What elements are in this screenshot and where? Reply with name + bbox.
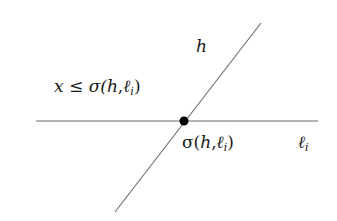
- label-line-l-i: ℓi: [298, 134, 309, 153]
- constraint-prefix: x ≤ σ(: [54, 76, 107, 96]
- diagram-lines: [0, 0, 337, 221]
- label-intersection: σ(h,ℓi): [182, 134, 234, 153]
- point-close: ): [227, 132, 234, 152]
- point-h: h: [200, 132, 211, 152]
- intersection-point: [180, 117, 189, 126]
- line-h: [115, 23, 261, 212]
- constraint-h: h: [107, 76, 118, 96]
- point-l: ℓ: [217, 132, 224, 152]
- constraint-close: ): [134, 76, 141, 96]
- label-constraint: x ≤ σ(h,ℓi): [54, 78, 141, 97]
- point-prefix: σ(: [182, 132, 200, 152]
- diagram-canvas: h x ≤ σ(h,ℓi) σ(h,ℓi) ℓi: [0, 0, 337, 221]
- label-h: h: [196, 38, 207, 55]
- line-l-sub: i: [305, 141, 309, 154]
